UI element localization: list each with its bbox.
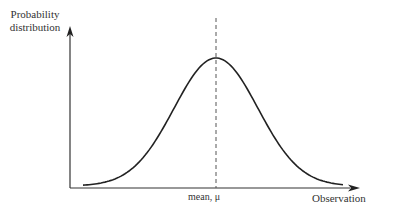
bell-curve: [83, 58, 343, 185]
y-axis-label-line1: Probability: [4, 8, 66, 21]
y-axis-label-line2: distribution: [4, 21, 66, 34]
mean-label: mean, μ: [188, 190, 220, 203]
x-axis-label: Observation: [312, 192, 366, 205]
y-axis-label: Probability distribution: [4, 8, 66, 34]
